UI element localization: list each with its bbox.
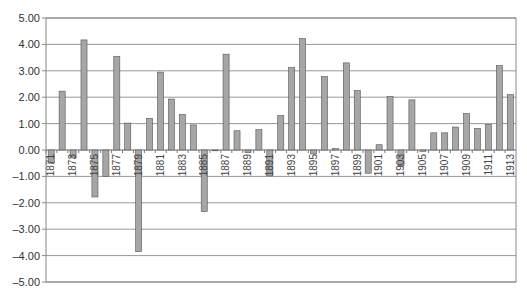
bar-chart: 5.004.003.002.001.000.00–1.00–2.00–3.00–… — [0, 0, 527, 299]
y-axis-labels: 5.004.003.002.001.000.00–1.00–2.00–3.00–… — [12, 12, 40, 288]
x-tick-label: 1877 — [111, 154, 122, 177]
bar-1882 — [168, 99, 174, 150]
x-tick-label: 1907 — [439, 154, 450, 177]
bar-1908 — [453, 127, 459, 150]
bar-1877 — [114, 56, 120, 150]
x-tick-label: 1911 — [483, 154, 494, 176]
bar-1905 — [420, 150, 426, 151]
y-tick-label: 3.00 — [19, 65, 40, 77]
bar-1910 — [474, 128, 480, 150]
x-tick-label: 1905 — [417, 154, 428, 177]
bar-1911 — [485, 124, 491, 150]
bar-1886 — [212, 150, 218, 151]
x-tick-label: 1879 — [133, 154, 144, 177]
y-tick-label: 5.00 — [19, 12, 40, 24]
bar-1888 — [234, 131, 240, 150]
x-tick-label: 1893 — [286, 154, 297, 177]
bar-1876 — [103, 150, 109, 176]
y-tick-label: –2.00 — [12, 197, 40, 209]
bar-1896 — [321, 77, 327, 150]
x-tick-label: 1887 — [220, 154, 231, 177]
bar-1904 — [409, 100, 415, 150]
x-tick-label: 1873 — [67, 154, 78, 177]
y-tick-label: 0.00 — [19, 144, 40, 156]
y-tick-label: –5.00 — [12, 276, 40, 288]
x-tick-label: 1909 — [461, 154, 472, 177]
bar-1906 — [431, 133, 437, 150]
y-tick-label: 4.00 — [19, 38, 40, 50]
x-tick-label: 1885 — [198, 154, 209, 177]
bar-1872 — [59, 91, 65, 150]
x-tick-label: 1901 — [373, 154, 384, 177]
y-tick-label: –4.00 — [12, 250, 40, 262]
bar-1878 — [125, 123, 131, 150]
bar-1898 — [343, 63, 349, 150]
x-tick-label: 1897 — [330, 154, 341, 177]
x-tick-label: 1875 — [89, 154, 100, 177]
bar-1881 — [157, 72, 163, 150]
bar-1899 — [354, 91, 360, 150]
bar-1880 — [147, 118, 153, 150]
y-tick-label: –3.00 — [12, 223, 40, 235]
bar-1893 — [289, 68, 295, 150]
y-tick-label: –1.00 — [12, 170, 40, 182]
bar-1890 — [256, 130, 262, 150]
bar-1907 — [442, 133, 448, 150]
bar-1889 — [245, 150, 251, 153]
bar-1894 — [300, 39, 306, 150]
x-tick-label: 1891 — [264, 154, 275, 177]
x-tick-label: 1881 — [155, 154, 166, 177]
x-tick-label: 1871 — [45, 154, 56, 177]
bar-1892 — [278, 116, 284, 150]
bar-1902 — [387, 96, 393, 150]
bar-1883 — [179, 114, 185, 150]
bar-1901 — [376, 145, 382, 150]
bar-1912 — [496, 66, 502, 150]
x-tick-label: 1889 — [242, 154, 253, 177]
bar-1895 — [311, 150, 317, 154]
x-tick-label: 1903 — [395, 154, 406, 177]
bar-1884 — [190, 125, 196, 150]
bar-1913 — [507, 95, 513, 150]
x-tick-label: 1883 — [177, 154, 188, 177]
x-tick-label: 1899 — [352, 154, 363, 177]
bar-1900 — [365, 150, 371, 173]
x-tick-label: 1895 — [308, 154, 319, 177]
bar-1874 — [81, 40, 87, 150]
y-tick-label: 2.00 — [19, 91, 40, 103]
y-tick-label: 1.00 — [19, 118, 40, 130]
bar-1909 — [464, 114, 470, 150]
x-axis-labels: 1871187318751877187918811883188518871889… — [45, 154, 515, 177]
bar-1897 — [332, 149, 338, 150]
bar-1887 — [223, 54, 229, 150]
x-tick-label: 1913 — [505, 154, 516, 177]
